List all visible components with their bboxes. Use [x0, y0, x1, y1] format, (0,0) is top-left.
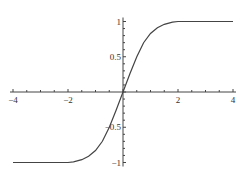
y-tick-label: 1 [117, 17, 122, 27]
y-tick-label: −1 [111, 158, 121, 168]
x-tick-label: −2 [63, 95, 73, 105]
x-tick-label: 2 [176, 95, 181, 105]
x-tick-label: 4 [231, 95, 236, 105]
y-tick-label: 0.5 [110, 52, 122, 62]
x-tick-label: −4 [8, 95, 18, 105]
function-plot: −4−224−1−0.50.51 [0, 0, 246, 179]
